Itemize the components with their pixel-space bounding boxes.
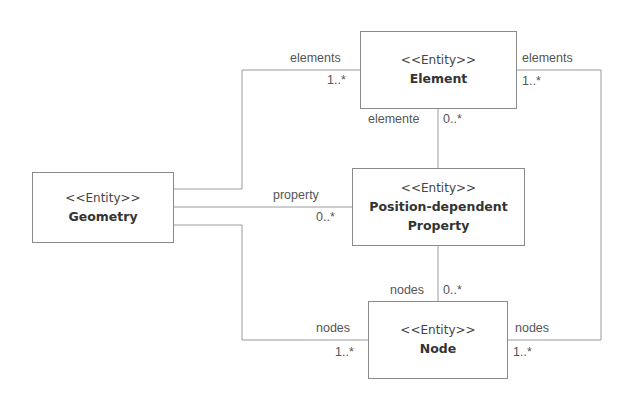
multiplicity-label: 1..* (522, 74, 541, 88)
role-label: nodes (515, 321, 549, 335)
stereotype-label: <<Entity>> (401, 180, 476, 197)
entity-name-line1: Position-dependent (369, 197, 507, 216)
entity-name-line2: Property (408, 216, 470, 235)
multiplicity-label: 1..* (327, 73, 346, 87)
role-label: elements (290, 51, 341, 65)
entity-name: Node (420, 339, 456, 358)
multiplicity-label: 0..* (443, 112, 462, 126)
uml-diagram: <<Entity>> Element <<Entity>> Geometry <… (0, 0, 629, 398)
entity-node[interactable]: <<Entity>> Node (368, 301, 508, 379)
line-geometry-element (173, 70, 360, 189)
multiplicity-label: 0..* (316, 210, 335, 224)
role-label: elements (522, 51, 573, 65)
entity-position-dependent-property[interactable]: <<Entity>> Position-dependent Property (352, 168, 525, 246)
multiplicity-label: 1..* (513, 345, 532, 359)
entity-name: Element (410, 69, 468, 88)
multiplicity-label: 1..* (335, 345, 354, 359)
role-label: elemente (368, 112, 419, 126)
role-label: nodes (390, 283, 424, 297)
stereotype-label: <<Entity>> (65, 190, 140, 207)
entity-geometry[interactable]: <<Entity>> Geometry (32, 172, 174, 243)
role-label: nodes (316, 321, 350, 335)
stereotype-label: <<Entity>> (401, 52, 476, 69)
role-label: property (273, 188, 319, 202)
multiplicity-label: 0..* (443, 283, 462, 297)
entity-name: Geometry (68, 207, 137, 226)
stereotype-label: <<Entity>> (400, 322, 475, 339)
entity-element[interactable]: <<Entity>> Element (360, 31, 517, 109)
